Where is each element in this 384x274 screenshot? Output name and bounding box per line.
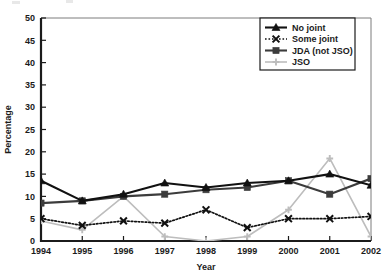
marker-square	[327, 191, 333, 197]
marker-triangle	[37, 177, 45, 184]
y-tick-label: 45	[25, 36, 35, 46]
series-jda-not-jso-	[38, 175, 374, 206]
x-tick-label: 1995	[72, 246, 92, 256]
x-tick-label: 2000	[278, 246, 298, 256]
marker-square	[273, 47, 279, 53]
y-tick-label: 40	[25, 58, 35, 68]
y-tick-label: 35	[25, 80, 35, 90]
y-tick-label: 50	[25, 13, 35, 23]
y-tick-label: 20	[25, 147, 35, 157]
y-tick-label: 10	[25, 192, 35, 202]
scan-artifact	[12, 1, 20, 4]
x-tick-label: 1994	[31, 246, 51, 256]
scan-artifact	[66, 0, 73, 3]
y-tick-label: 30	[25, 102, 35, 112]
series-path	[41, 210, 371, 228]
y-axis-title: Percentage	[3, 105, 13, 154]
x-tick-label: 2002	[361, 246, 381, 256]
legend: No jointSome jointJDA (not JSO)JSO	[260, 18, 355, 70]
y-tick-label: 0	[30, 236, 35, 246]
series-no-joint	[37, 170, 375, 204]
x-axis-title: Year	[196, 262, 216, 272]
y-tick-label: 25	[25, 125, 35, 135]
line-chart: 0510152025303540455019941995199619971998…	[0, 0, 384, 274]
marker-plus	[203, 238, 210, 245]
marker-square	[38, 200, 44, 206]
legend-label-1: No joint	[292, 23, 326, 33]
y-tick-label: 15	[25, 169, 35, 179]
x-tick-label: 1998	[196, 246, 216, 256]
marker-plus	[368, 233, 375, 240]
series-some-joint	[38, 206, 375, 231]
y-tick-label: 5	[30, 214, 35, 224]
x-tick-label: 2001	[320, 246, 340, 256]
x-tick-label: 1997	[155, 246, 175, 256]
legend-label-4: JSO	[292, 57, 310, 67]
chart-canvas: 0510152025303540455019941995199619971998…	[0, 0, 384, 274]
marker-square	[162, 191, 168, 197]
legend-label-2: Some joint	[292, 34, 338, 44]
x-tick-label: 1999	[237, 246, 257, 256]
x-tick-label: 1996	[113, 246, 133, 256]
legend-label-3: JDA (not JSO)	[292, 46, 353, 56]
